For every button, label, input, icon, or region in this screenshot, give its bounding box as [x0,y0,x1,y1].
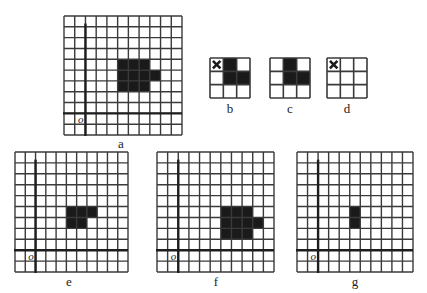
filled-cell [77,207,87,218]
filled-cell [150,70,161,81]
filled-cell [283,58,296,71]
filled-cell [139,70,150,81]
filled-cell [139,81,150,92]
filled-cell [118,59,129,70]
filled-cell [253,217,264,228]
origin-label-g: o [311,250,317,262]
filled-cell [221,217,232,228]
panel-label-c: c [287,101,293,117]
filled-cell [118,70,129,81]
grid-panel-c [270,58,310,98]
filled-cell [66,207,76,218]
origin-label-a: o [78,113,84,125]
filled-cell [221,207,232,218]
filled-cell [242,217,253,228]
filled-cell [128,70,139,81]
filled-cell [118,81,129,92]
diagram-canvas [0,0,427,293]
origin-label-e: o [28,250,34,262]
panel-label-f: f [214,274,218,290]
filled-cell [350,217,361,228]
filled-cell [231,217,242,228]
filled-cell [66,217,76,228]
filled-cell [231,228,242,239]
filled-cell [231,207,242,218]
filled-cell [237,71,250,84]
panel-label-g: g [352,274,359,290]
filled-cell [128,81,139,92]
filled-cell [128,59,139,70]
grid-panel-d [327,58,367,98]
origin-label-f: o [171,250,177,262]
filled-cell [297,71,310,84]
filled-cell [139,59,150,70]
filled-cell [87,207,97,218]
filled-cell [77,217,87,228]
filled-cell [223,58,236,71]
panel-label-d: d [344,101,351,117]
panel-label-a: a [118,136,124,152]
filled-cell [242,228,253,239]
filled-cell [242,207,253,218]
filled-cell [221,228,232,239]
panel-label-e: e [66,274,72,290]
filled-cell [283,71,296,84]
filled-cell [350,207,361,218]
filled-cell [223,71,236,84]
panel-label-b: b [227,101,234,117]
grid-panel-b [210,58,250,98]
